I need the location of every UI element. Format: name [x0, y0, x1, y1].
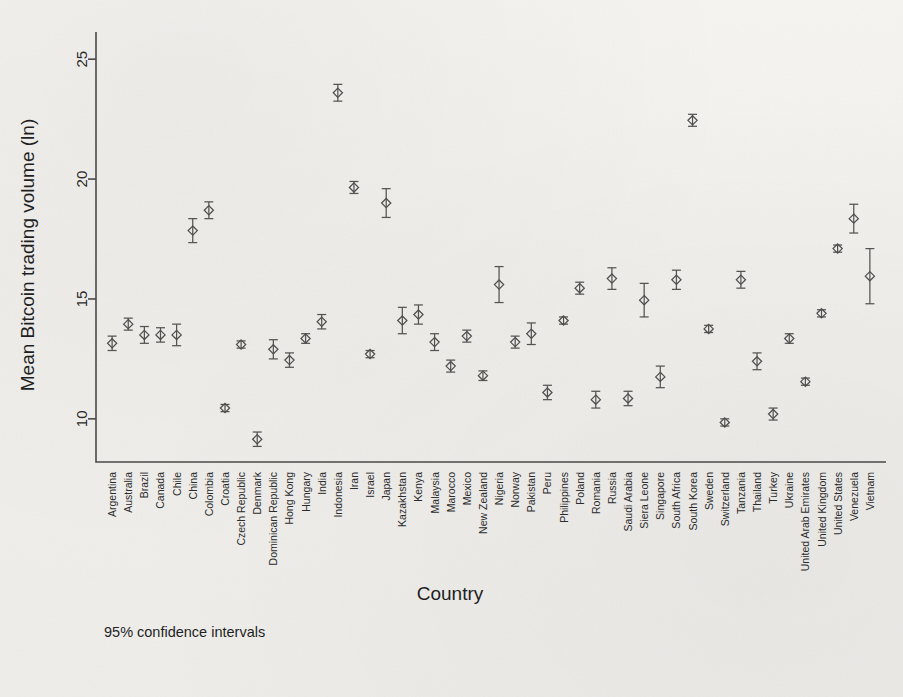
x-category-label: Siera Leone	[638, 472, 650, 529]
data-point	[688, 114, 697, 126]
data-point	[269, 340, 278, 359]
axes-group: 10152025	[74, 32, 887, 462]
data-point	[156, 328, 165, 342]
x-category-label: Romania	[590, 472, 602, 514]
data-point	[575, 282, 584, 294]
x-category-label: Sweden	[703, 472, 715, 510]
y-tick-label: 15	[74, 291, 91, 308]
data-point	[188, 219, 197, 243]
data-point	[865, 249, 874, 304]
data-point	[478, 371, 487, 381]
x-category-label: Japan	[380, 472, 392, 501]
data-point	[720, 418, 729, 427]
x-category-label: New Zealand	[477, 472, 489, 534]
data-point	[607, 268, 616, 290]
x-category-label: Dominican Republic	[267, 472, 279, 565]
data-point	[462, 330, 471, 342]
data-point	[414, 305, 423, 324]
data-point	[769, 408, 778, 420]
data-point	[446, 360, 455, 372]
data-point	[124, 318, 133, 330]
data-point	[559, 316, 568, 325]
x-category-label: South Africa	[670, 472, 682, 529]
category-labels-group: ArgentinaAustraliaBrazilCanadaChileChina…	[106, 471, 876, 571]
data-point	[253, 432, 262, 446]
data-point	[704, 324, 713, 333]
data-point	[591, 391, 600, 408]
data-point	[494, 267, 503, 303]
data-point	[398, 307, 407, 333]
x-category-label: Canada	[154, 472, 166, 509]
data-point	[736, 271, 745, 288]
x-category-label: Brazil	[138, 472, 150, 498]
x-category-label: Israel	[364, 472, 376, 498]
x-category-label: United Arab Emirates	[799, 472, 811, 571]
data-points-group	[108, 84, 875, 446]
data-point	[430, 334, 439, 351]
x-category-label: Switzerland	[719, 472, 731, 526]
data-point	[656, 366, 665, 388]
x-category-label: Saudi Arabia	[622, 472, 634, 532]
x-category-label: Venezuela	[848, 472, 860, 521]
x-category-label: Russia	[606, 472, 618, 504]
x-category-label: Thailand	[751, 472, 763, 512]
x-axis-title: Country	[417, 583, 484, 604]
data-point	[285, 353, 294, 367]
x-category-label: Peru	[541, 472, 553, 494]
data-point	[801, 377, 810, 386]
data-point	[317, 315, 326, 329]
data-point	[172, 324, 181, 346]
data-point	[349, 181, 358, 193]
x-category-label: United States	[832, 472, 844, 535]
y-axis-title: Mean Bitcoin trading volume (ln)	[17, 119, 38, 391]
x-category-label: Marocco	[445, 472, 457, 512]
data-point	[365, 350, 374, 359]
x-category-label: Singapore	[654, 472, 666, 520]
data-point	[333, 84, 342, 101]
x-category-label: Turkey	[767, 471, 779, 503]
y-tick-label: 25	[74, 51, 91, 68]
y-tick-label: 20	[74, 171, 91, 188]
y-tick-label: 10	[74, 410, 91, 427]
x-category-label: Hungary	[300, 471, 312, 511]
data-point	[672, 270, 681, 289]
x-category-label: Philippines	[558, 472, 570, 523]
x-category-label: Mexico	[461, 472, 473, 505]
chart-canvas: 10152025 ArgentinaAustraliaBrazilCanadaC…	[0, 0, 903, 697]
data-point	[511, 336, 520, 348]
data-point	[849, 204, 858, 233]
bitcoin-volume-chart: 10152025 ArgentinaAustraliaBrazilCanadaC…	[0, 0, 903, 697]
x-category-label: Czech Republic	[235, 472, 247, 546]
x-category-label: Ukraine	[783, 472, 795, 508]
x-category-label: Chile	[171, 472, 183, 496]
x-category-label: Tanzania	[735, 472, 747, 514]
data-point	[623, 391, 632, 405]
x-category-label: Argentina	[106, 472, 118, 517]
data-point	[752, 353, 761, 370]
x-category-label: Poland	[574, 472, 586, 505]
data-point	[140, 327, 149, 344]
data-point	[833, 244, 842, 253]
x-category-label: China	[187, 472, 199, 500]
x-category-label: United Kingdom	[816, 472, 828, 547]
data-point	[237, 340, 246, 349]
data-point	[382, 189, 391, 218]
x-category-label: Australia	[122, 472, 134, 513]
x-category-label: Malaysia	[429, 472, 441, 514]
x-category-label: Vietnam	[864, 472, 876, 511]
x-category-label: Pakistan	[525, 472, 537, 512]
data-point	[785, 334, 794, 344]
data-point	[527, 323, 536, 345]
x-category-label: Indonesia	[332, 472, 344, 518]
data-point	[817, 309, 826, 318]
x-category-label: Colombia	[203, 472, 215, 517]
data-point	[543, 385, 552, 399]
data-point	[220, 403, 229, 412]
x-category-label: India	[316, 472, 328, 495]
x-category-label: Iran	[348, 472, 360, 490]
x-category-label: Kenya	[412, 472, 424, 502]
data-point	[640, 283, 649, 317]
x-category-label: South Korea	[687, 472, 699, 531]
x-category-label: Kazakhstan	[396, 472, 408, 527]
x-category-label: Croatia	[219, 472, 231, 506]
